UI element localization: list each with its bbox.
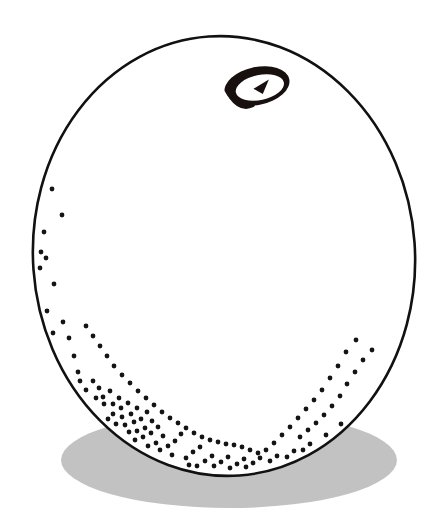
particle-dot xyxy=(135,429,140,434)
particle-dot xyxy=(345,382,350,387)
particle-dot xyxy=(210,454,215,459)
particle-dot xyxy=(123,423,128,428)
particle-dot xyxy=(129,412,134,417)
particle-dot xyxy=(76,370,81,375)
particle-dot xyxy=(244,465,249,470)
particle-dot xyxy=(154,441,159,446)
particle-dot xyxy=(179,432,184,437)
particle-dot xyxy=(135,406,140,411)
particle-dot xyxy=(330,404,335,409)
particle-dot xyxy=(298,435,303,440)
particle-dot xyxy=(160,410,165,415)
particle-dot xyxy=(264,448,269,453)
particle-dot xyxy=(51,331,56,336)
particle-dot xyxy=(126,401,131,406)
particle-dot xyxy=(152,403,157,408)
particle-dot xyxy=(168,416,173,421)
particle-dot xyxy=(308,442,313,447)
particle-dot xyxy=(111,412,116,417)
particle-dot xyxy=(158,448,163,453)
particle-dot xyxy=(127,430,132,435)
particle-dot xyxy=(161,434,166,439)
particle-dot xyxy=(108,389,113,394)
particle-dot xyxy=(97,386,102,391)
particle-dot xyxy=(105,354,110,359)
particle-dot xyxy=(149,431,154,436)
particle-dot xyxy=(44,256,49,261)
particle-dot xyxy=(198,445,203,450)
particle-dot xyxy=(191,450,196,455)
particle-dot xyxy=(288,425,293,430)
particle-dot xyxy=(314,421,319,426)
particle-dot xyxy=(235,462,240,467)
particle-dot xyxy=(251,461,256,466)
particle-dot xyxy=(112,364,117,369)
particle-dot xyxy=(200,435,205,440)
particle-dot xyxy=(50,187,55,192)
particle-dot xyxy=(292,449,297,454)
particle-dot xyxy=(132,420,137,425)
particle-dot xyxy=(170,453,175,458)
particle-dot xyxy=(354,338,359,343)
particle-dot xyxy=(176,421,181,426)
particle-dot xyxy=(101,395,106,400)
particle-dot xyxy=(187,463,192,468)
particle-dot xyxy=(212,464,217,469)
particle-dot xyxy=(184,456,189,461)
particle-dot xyxy=(296,416,301,421)
particle-dot xyxy=(320,388,325,393)
particle-dot xyxy=(195,464,200,469)
particle-dot xyxy=(353,370,358,375)
particle-dot xyxy=(219,460,224,465)
particle-dot xyxy=(60,213,65,218)
particle-dot xyxy=(339,422,344,427)
sphere-particles-diagram: Sphere with settled particles and rotati… xyxy=(0,0,441,532)
particle-dot xyxy=(120,373,125,378)
particle-dot xyxy=(216,440,221,445)
particle-dot xyxy=(184,426,189,431)
particle-dot xyxy=(370,348,375,353)
particle-dot xyxy=(45,309,50,314)
particle-dot xyxy=(106,417,111,422)
particle-dot xyxy=(242,457,247,462)
particle-dot xyxy=(136,389,141,394)
particle-dot xyxy=(98,344,103,349)
particle-dot xyxy=(304,407,309,412)
particle-dot xyxy=(94,396,99,401)
particle-dot xyxy=(133,438,138,443)
particle-dot xyxy=(344,350,349,355)
particle-dot xyxy=(144,396,149,401)
particle-dot xyxy=(224,442,229,447)
particle-dot xyxy=(258,456,263,461)
particle-dot xyxy=(141,435,146,440)
particle-dot xyxy=(102,402,107,407)
particle-dot xyxy=(328,376,333,381)
particle-dot xyxy=(156,425,161,430)
particle-dot xyxy=(361,358,366,363)
particle-dot xyxy=(275,454,280,459)
particle-dot xyxy=(312,398,317,403)
particle-dot xyxy=(111,402,116,407)
particle-dot xyxy=(228,466,233,471)
particle-dot xyxy=(91,334,96,339)
particle-dot xyxy=(67,336,72,341)
particle-dot xyxy=(173,439,178,444)
particle-dot xyxy=(146,444,151,449)
particle-dot xyxy=(192,431,197,436)
particle-dot xyxy=(42,230,47,235)
particle-dot xyxy=(119,406,124,411)
particle-dot xyxy=(280,433,285,438)
particle-dot xyxy=(272,441,277,446)
particle-dot xyxy=(268,459,273,464)
particle-dot xyxy=(301,448,306,453)
particle-dot xyxy=(336,364,341,369)
particle-dot xyxy=(226,455,231,460)
particle-dot xyxy=(240,445,245,450)
particle-dot xyxy=(306,428,311,433)
particle-dot xyxy=(120,415,125,420)
particle-dot xyxy=(143,426,148,431)
particle-dot xyxy=(117,396,122,401)
particle-dot xyxy=(84,324,89,329)
particle-dot xyxy=(91,379,96,384)
particle-dot xyxy=(203,459,208,464)
